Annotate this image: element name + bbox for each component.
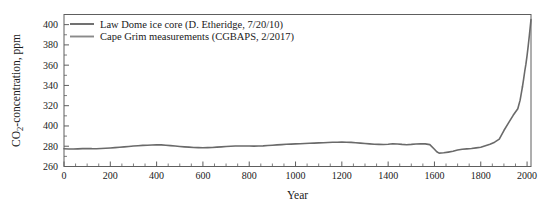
x-tick-label: 1000 [286, 170, 306, 181]
legend: Law Dome ice core (D. Etheridge, 7/20/10… [70, 19, 294, 44]
y-tick-label: 280 [43, 141, 58, 152]
y-tick-label: 360 [43, 60, 58, 71]
co2-concentration-chart: 0200400600800100012001400160018002000Yea… [0, 0, 551, 203]
y-tick-label: 320 [43, 100, 58, 111]
y-tick-label: 260 [43, 161, 58, 172]
x-tick-label: 600 [195, 170, 210, 181]
x-tick-label: 1800 [471, 170, 491, 181]
y-tick-label: 340 [43, 80, 58, 91]
x-axis-title: Year [287, 189, 308, 201]
x-tick-label: 1400 [378, 170, 398, 181]
y-tick-label: 400 [43, 120, 58, 131]
y-tick-label: 400 [43, 19, 58, 30]
x-tick-label: 1200 [332, 170, 352, 181]
x-tick-label: 1600 [424, 170, 444, 181]
legend-label: Law Dome ice core (D. Etheridge, 7/20/10… [100, 19, 284, 31]
legend-label: Cape Grim measurements (CGBAPS, 2/2017) [100, 31, 294, 43]
x-tick-label: 400 [149, 170, 164, 181]
x-tick-label: 800 [242, 170, 257, 181]
x-tick-label: 2000 [517, 170, 537, 181]
x-tick-label: 0 [62, 170, 67, 181]
y-tick-label: 380 [43, 39, 58, 50]
x-tick-label: 200 [103, 170, 118, 181]
